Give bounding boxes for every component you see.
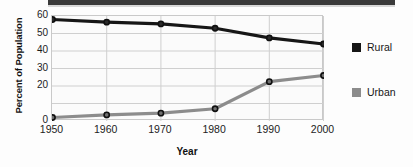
chart-figure: Percent of Population 02030405060 195019… xyxy=(0,0,413,167)
data-point-marker xyxy=(52,115,55,120)
data-point-marker xyxy=(104,20,109,25)
gridlines xyxy=(52,16,324,121)
data-point-marker xyxy=(267,35,272,40)
data-point-marker xyxy=(267,79,272,84)
x-tick-label: 1990 xyxy=(245,123,291,135)
data-point-marker xyxy=(158,111,163,116)
series-line xyxy=(53,20,324,45)
data-point-marker xyxy=(321,73,324,78)
chart-canvas xyxy=(52,16,324,121)
y-tick-label: 40 xyxy=(26,45,48,55)
y-axis-tick-labels: 02030405060 xyxy=(24,0,48,167)
legend-item-urban[interactable]: Urban xyxy=(352,85,413,99)
x-axis-title: Year xyxy=(51,146,323,157)
y-tick-label: 20 xyxy=(26,80,48,90)
data-point-marker xyxy=(213,26,218,31)
legend-label: Urban xyxy=(367,86,396,98)
banner-edge-shadow xyxy=(48,5,395,7)
x-tick-label: 2000 xyxy=(300,123,346,135)
plot-area xyxy=(51,15,323,120)
y-tick-label: 60 xyxy=(26,10,48,20)
x-axis-tick-labels: 195019601970198019902000 xyxy=(51,123,323,139)
data-point-marker xyxy=(104,112,109,117)
x-tick-label: 1960 xyxy=(83,123,129,135)
y-tick-label: 30 xyxy=(26,63,48,73)
x-tick-label: 1980 xyxy=(191,123,237,135)
data-point-marker xyxy=(52,17,55,22)
data-point-marker xyxy=(213,106,218,111)
x-tick-label: 1950 xyxy=(29,123,75,135)
chart-legend: RuralUrban xyxy=(352,40,413,130)
y-axis-title: Percent of Population xyxy=(13,1,24,131)
legend-item-rural[interactable]: Rural xyxy=(352,40,413,54)
x-tick-label: 1970 xyxy=(137,123,183,135)
data-point-marker xyxy=(321,41,324,46)
series-rural xyxy=(52,17,324,47)
series-urban xyxy=(52,73,324,120)
series-line xyxy=(53,76,324,118)
legend-swatch-icon xyxy=(352,88,361,97)
legend-swatch-icon xyxy=(352,43,361,52)
y-tick-label: 50 xyxy=(26,28,48,38)
data-point-marker xyxy=(158,21,163,26)
legend-label: Rural xyxy=(367,41,392,53)
